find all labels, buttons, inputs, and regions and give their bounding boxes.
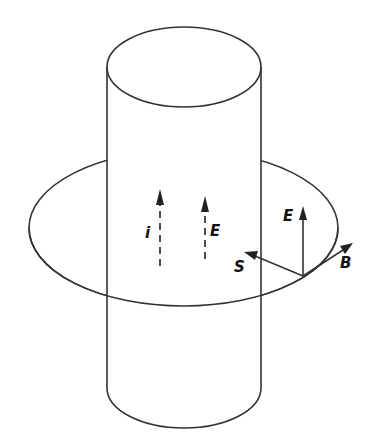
surface-field-arrow-head-icon [299, 206, 307, 220]
inner-field-label: E [210, 222, 221, 240]
surface-field-label: E [283, 207, 294, 225]
cylinder-fill [107, 67, 261, 428]
current-label: i [145, 224, 151, 242]
magnetic-arrow-shaft [303, 250, 343, 276]
wire-diagram: i E E S B [0, 0, 375, 447]
magnetic-label: B [340, 254, 351, 272]
poynting-label: S [234, 258, 245, 276]
poynting-arrow-shaft [255, 256, 303, 276]
magnetic-arrow-head-icon [340, 243, 353, 254]
